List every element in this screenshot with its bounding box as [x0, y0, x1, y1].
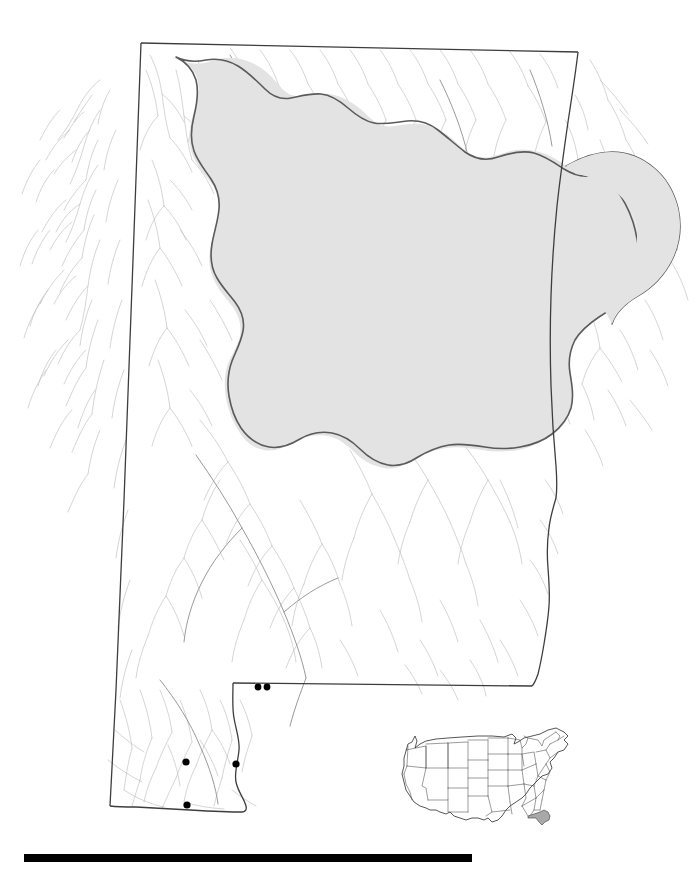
occurrence-point: [255, 684, 262, 691]
main-map: [0, 0, 698, 870]
distribution-map-figure: [0, 0, 698, 870]
florida-highlight: [528, 810, 550, 825]
scale-bar: [24, 854, 472, 862]
occurrence-point: [264, 684, 271, 691]
occurrence-point: [232, 760, 239, 767]
occurrence-point: [183, 801, 190, 808]
occurrence-point: [182, 758, 189, 765]
us-locator-inset: [392, 722, 582, 834]
